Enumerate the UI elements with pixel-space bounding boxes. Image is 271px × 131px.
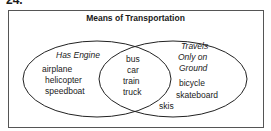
both-item: car bbox=[127, 65, 139, 76]
both-item: bus bbox=[126, 54, 140, 65]
left-item: helicopter bbox=[45, 75, 82, 86]
right-set-label-line: Only on bbox=[178, 52, 207, 63]
right-set-label-line: Ground bbox=[179, 63, 207, 74]
skis-label: skis bbox=[159, 101, 174, 112]
right-item: skateboard bbox=[176, 90, 218, 101]
right-set-label-line: Travels bbox=[181, 41, 208, 52]
left-item: airplane bbox=[42, 64, 72, 75]
left-item: speedboat bbox=[45, 86, 85, 97]
both-item: train bbox=[123, 76, 140, 87]
right-item: bicycle bbox=[179, 78, 205, 89]
both-item: truck bbox=[123, 87, 141, 98]
left-set-label: Has Engine bbox=[56, 50, 100, 61]
